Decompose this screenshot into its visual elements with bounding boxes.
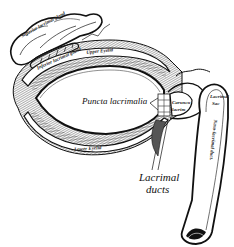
label-caruncula-line1: Caruncu (172, 100, 190, 105)
label-lacrimal-sac-line2: Sac (212, 101, 220, 106)
caruncle-shadow (152, 120, 166, 156)
label-lacrimal-sac-line1: Lacrimal (210, 94, 229, 99)
label-puncta-lacrimalia: Puncta lacrimalia (82, 97, 147, 106)
label-lacrimal-ducts-line2: ducts (146, 184, 169, 195)
label-caruncula-line2: lacrim (172, 107, 185, 112)
label-lacrimal-ducts-line1: Lacrimal (139, 172, 179, 183)
lacrimal-apparatus-diagram (0, 0, 234, 247)
